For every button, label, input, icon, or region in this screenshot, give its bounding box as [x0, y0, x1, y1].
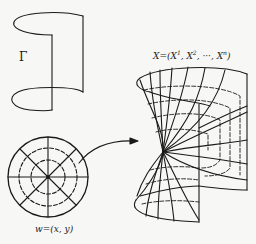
unit-disk [8, 137, 88, 217]
mapping-arrow [79, 138, 138, 163]
diagram-canvas [0, 0, 256, 244]
domain-label: w=(x, y) [35, 224, 73, 234]
curve-label-gamma: Γ [19, 50, 27, 64]
minimal-surface [134, 67, 247, 222]
map-label: X=(X1, X2, ···, Xn) [153, 49, 231, 61]
